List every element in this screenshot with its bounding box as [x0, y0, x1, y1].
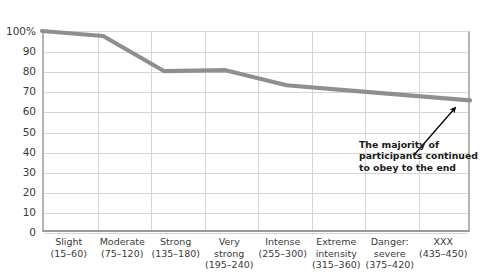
x-axis-tick-line: (435–450) [413, 248, 473, 260]
x-axis-tick-label: Intense(255–300) [253, 236, 313, 259]
x-axis-tick-line: intensity [306, 248, 366, 260]
x-axis-tick-line: strong [199, 248, 259, 260]
x-axis-tick-label: Verystrong(195–240) [199, 236, 259, 271]
x-axis-tick-line: (75–120) [92, 248, 152, 260]
x-axis-tick-line: Moderate [92, 236, 152, 248]
y-axis-tick-label: 50 [0, 127, 36, 138]
gridline-horizontal [44, 233, 468, 234]
x-axis-tick-line: Extreme [306, 236, 366, 248]
y-axis-tick-label: 40 [0, 147, 36, 158]
y-axis-tick-label: 10 [0, 207, 36, 218]
x-axis-tick-line: (375–420) [360, 259, 420, 271]
data-line-series [42, 31, 470, 232]
y-axis-tick-label: 100% [0, 26, 36, 37]
x-axis-tick-line: Strong [146, 236, 206, 248]
x-axis-tick-line: severe [360, 248, 420, 260]
y-axis-tick-label: 60 [0, 106, 36, 117]
y-axis-tick-label: 90 [0, 46, 36, 57]
x-axis-tick-label: Strong(135–180) [146, 236, 206, 259]
x-axis-tick-line: Intense [253, 236, 313, 248]
x-axis-tick-line: (195–240) [199, 259, 259, 271]
annotation-line-3: to obey to the end [359, 162, 491, 173]
y-axis-tick-label: 70 [0, 86, 36, 97]
x-axis-tick-line: (135–180) [146, 248, 206, 260]
x-axis-tick-label: XXX(435–450) [413, 236, 473, 259]
x-axis-tick-label: Moderate(75–120) [92, 236, 152, 259]
y-axis-tick-label: 20 [0, 187, 36, 198]
y-axis-tick-label: 0 [0, 227, 36, 238]
x-axis-tick-line: Very [199, 236, 259, 248]
chart-container: 100%9080706050403020100 Slight(15–60)Mod… [0, 0, 498, 278]
x-axis-tick-label: Danger:severe(375–420) [360, 236, 420, 271]
x-axis-tick-line: Slight [39, 236, 99, 248]
chart-annotation: The majority of participants continued t… [359, 139, 491, 173]
x-axis-tick-line: (315–360) [306, 259, 366, 271]
x-axis-tick-label: Slight(15–60) [39, 236, 99, 259]
x-axis-tick-line: XXX [413, 236, 473, 248]
y-axis-tick-label: 30 [0, 167, 36, 178]
annotation-line-2: participants continued [359, 150, 491, 161]
y-axis-tick-label: 80 [0, 66, 36, 77]
x-axis-tick-label: Extremeintensity(315–360) [306, 236, 366, 271]
x-axis-tick-line: (255–300) [253, 248, 313, 260]
annotation-line-1: The majority of [359, 139, 491, 150]
x-axis-tick-line: Danger: [360, 236, 420, 248]
x-axis-tick-line: (15–60) [39, 248, 99, 260]
